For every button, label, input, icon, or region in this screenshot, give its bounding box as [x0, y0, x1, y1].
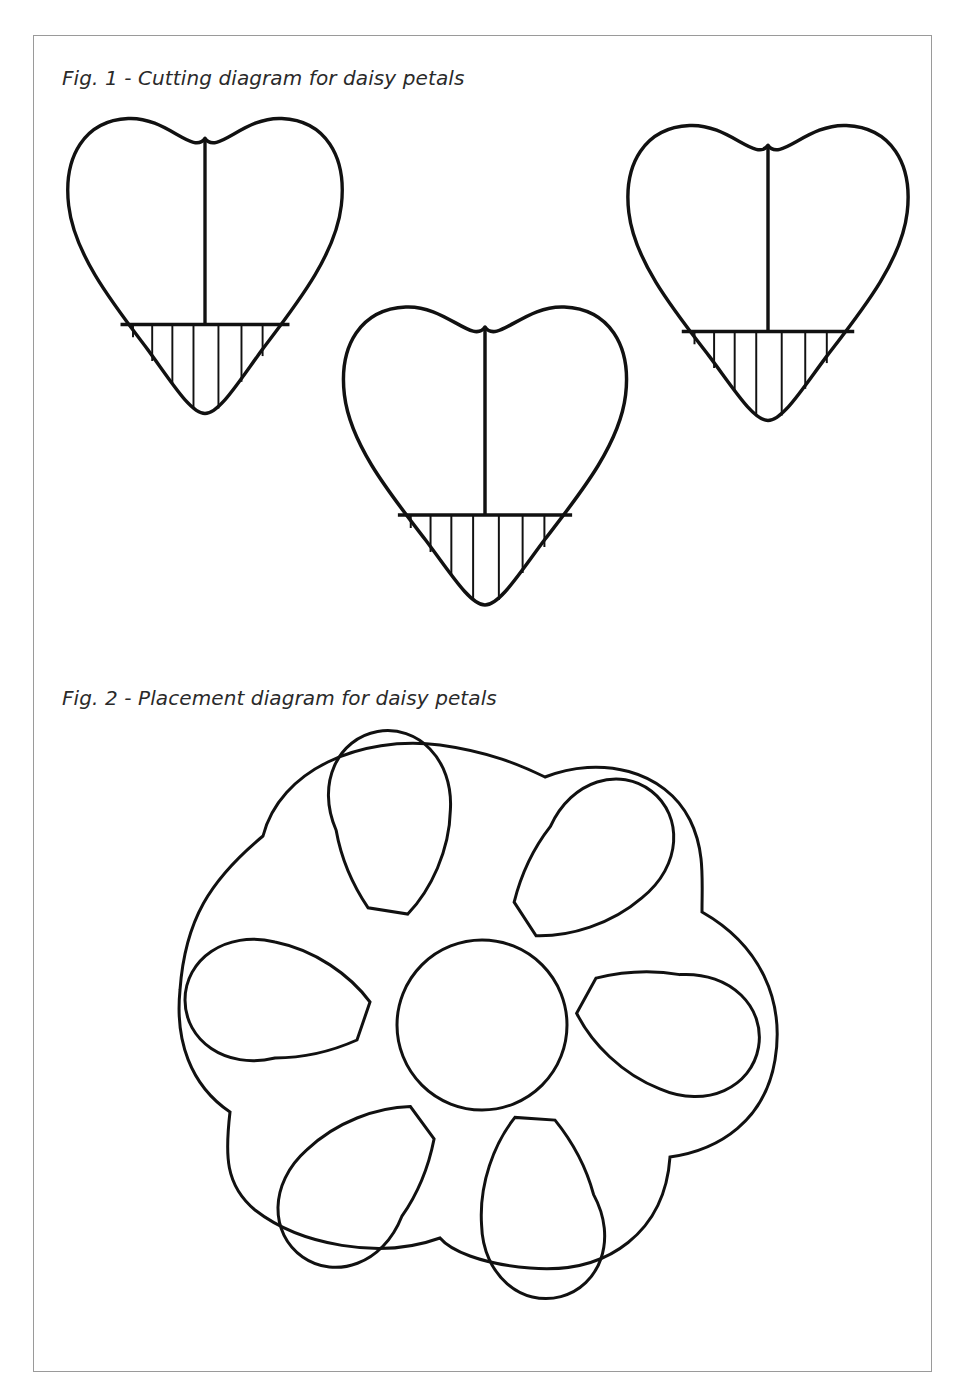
petal-bottom-right	[454, 1102, 619, 1312]
diagram-canvas	[0, 0, 967, 1383]
petal-top-left	[318, 721, 470, 924]
petal-top-right	[490, 754, 700, 974]
heart-petal-middle	[343, 307, 626, 605]
petal-right	[566, 955, 769, 1107]
petal-left	[185, 939, 370, 1060]
heart-petal-right	[628, 125, 908, 420]
heart-petal-left	[68, 118, 342, 413]
flower-outline	[179, 743, 777, 1268]
petal-bottom-left	[253, 1071, 459, 1292]
flower-center	[397, 940, 567, 1110]
flower-placement-diagram	[179, 721, 777, 1312]
